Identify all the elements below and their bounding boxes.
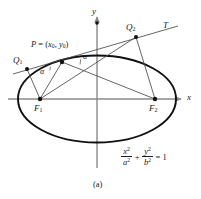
- equation-fraction-x: x2 a2: [121, 147, 132, 166]
- tangent-line-label: T: [163, 21, 168, 30]
- point-marker-Q2: [134, 35, 138, 39]
- equation-num-y: y2: [142, 147, 153, 157]
- point-marker-F1: [38, 97, 42, 101]
- point-marker-P: [60, 60, 64, 64]
- point-label-F2: F2: [149, 104, 157, 114]
- equation-equals-one: = 1: [156, 152, 167, 162]
- segment-p-f2: [62, 62, 155, 99]
- angle-arc-alpha-right: [80, 59, 81, 64]
- y-axis-label: y: [92, 7, 96, 16]
- point-label-F1: F1: [34, 104, 42, 114]
- figure-caption: (a): [93, 180, 102, 189]
- angle-arc-alpha-left: [50, 67, 51, 71]
- ellipse-equation: x2 a2 + y2 b2 = 1: [120, 147, 168, 166]
- point-label-Q2: Q2: [126, 23, 135, 33]
- tangent-line: [13, 26, 178, 74]
- point-label-Q1: Q1: [13, 56, 22, 66]
- equation-num-x: x2: [121, 147, 132, 157]
- point-marker-F2: [153, 97, 157, 101]
- point-label-P-close: ): [66, 39, 69, 49]
- x-axis-label: x: [187, 93, 191, 102]
- point-marker-Q1: [25, 67, 29, 71]
- ellipse-reflection-figure: y x P = (x0, y0) Q1 Q2 T F1 F2 α α x2 a2…: [0, 0, 201, 199]
- point-label-F1-sub: 1: [40, 107, 43, 113]
- diagram-canvas: [0, 0, 201, 199]
- equation-den-b: b2: [142, 157, 153, 166]
- point-label-Q1-sub: 1: [20, 59, 23, 65]
- point-label-F2-sub: 2: [155, 107, 158, 113]
- point-label-P-equals: = (: [36, 39, 48, 49]
- equation-den-a: a2: [121, 157, 132, 166]
- equation-fraction-y: y2 b2: [142, 147, 153, 166]
- point-label-P: P = (x0, y0): [31, 40, 68, 50]
- point-label-Q2-sub: 2: [133, 26, 136, 32]
- point-marker-y-axis-top: [95, 21, 99, 25]
- equation-plus-sign: +: [135, 152, 140, 162]
- angle-label-alpha-left: α: [40, 68, 44, 76]
- angle-label-alpha-right: α: [83, 53, 87, 61]
